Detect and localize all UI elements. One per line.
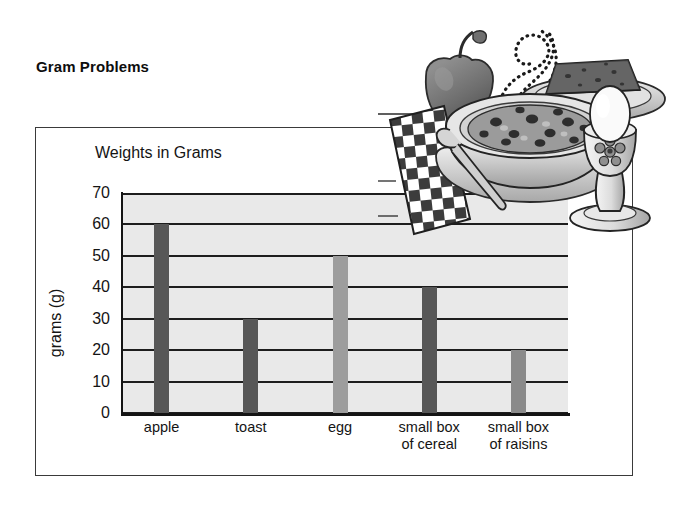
chart-bar <box>333 256 348 413</box>
y-tick-label: 60 <box>68 216 110 232</box>
chart-bar <box>422 287 437 413</box>
y-tick-label: 0 <box>68 405 110 421</box>
y-tick-label: 30 <box>68 311 110 327</box>
x-axis-line <box>121 413 570 416</box>
y-tick-label: 70 <box>68 185 110 201</box>
y-axis-label: grams (g) <box>47 268 65 378</box>
y-axis-line <box>121 192 123 415</box>
chart-title: Weights in Grams <box>95 144 222 162</box>
y-tick-label: 40 <box>68 279 110 295</box>
y-tick-label: 10 <box>68 374 110 390</box>
page-title: Gram Problems <box>36 58 149 75</box>
chart-gridline <box>122 223 568 225</box>
y-tick-label: 20 <box>68 342 110 358</box>
x-tick-label: small boxof raisins <box>463 419 573 453</box>
apple-icon <box>426 31 493 124</box>
steam-swirls-icon <box>498 30 556 118</box>
chart-bar <box>511 350 526 413</box>
toast-on-plate-icon <box>521 60 665 121</box>
y-tick-label: 50 <box>68 248 110 264</box>
chart-bar <box>154 224 169 413</box>
chart-bar <box>243 319 258 413</box>
chart-plot-area <box>122 193 568 413</box>
